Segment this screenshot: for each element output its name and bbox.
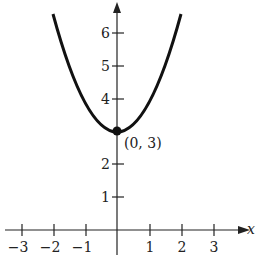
parabola-plot: x −3 −2 −1 1 2 3 1 2 4 5 6 (0, 3) [0, 0, 263, 272]
y-ticks [112, 33, 124, 197]
svg-text:2: 2 [101, 156, 110, 172]
svg-text:−2: −2 [40, 239, 61, 255]
vertex-point [113, 127, 122, 136]
svg-text:3: 3 [210, 239, 219, 255]
svg-text:2: 2 [178, 239, 187, 255]
svg-text:4: 4 [101, 91, 110, 107]
svg-text:1: 1 [101, 189, 110, 205]
y-axis-arrow-icon [113, 2, 121, 13]
vertex-label: (0, 3) [124, 135, 162, 151]
svg-text:−1: −1 [72, 239, 93, 255]
chart: x −3 −2 −1 1 2 3 1 2 4 5 6 (0, 3) [0, 0, 263, 272]
x-axis-label: x [247, 221, 255, 237]
svg-text:6: 6 [101, 25, 110, 41]
svg-text:1: 1 [146, 239, 155, 255]
x-tick-labels: −3 −2 −1 1 2 3 [8, 239, 219, 255]
y-tick-labels: 1 2 4 5 6 [101, 25, 110, 205]
svg-text:−3: −3 [8, 239, 29, 255]
svg-text:5: 5 [101, 58, 110, 74]
